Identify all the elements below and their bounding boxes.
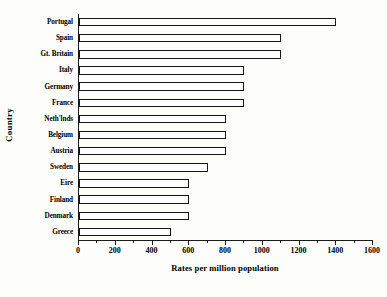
x-axis-minor-tick — [133, 240, 134, 243]
y-axis-tick-label: Austria — [16, 143, 76, 159]
y-axis-tick-label: Germany — [16, 79, 76, 95]
x-axis-title: Rates per million population — [78, 263, 372, 273]
bar-row — [79, 111, 372, 127]
y-axis-tick-label: Portugal — [16, 14, 76, 30]
bar — [79, 228, 171, 237]
x-axis-tick-labels: 02004006008001000120014001600 — [78, 246, 372, 258]
y-axis-tick-label: Denmark — [16, 208, 76, 224]
y-axis-tick-label: Gt. Britain — [16, 46, 76, 62]
x-axis-minor-tick — [207, 240, 208, 243]
bar — [79, 50, 281, 59]
x-axis-minor-tick — [170, 240, 171, 243]
bar — [79, 115, 226, 124]
bar-row — [79, 175, 372, 191]
bar-row — [79, 192, 372, 208]
y-axis-tick-label: Belgium — [16, 127, 76, 143]
bar-series — [79, 14, 372, 240]
bar — [79, 179, 189, 188]
x-axis-major-tick — [225, 240, 226, 245]
x-axis-tick-label: 200 — [109, 246, 121, 255]
bar-row — [79, 62, 372, 78]
x-axis-tick-label: 400 — [146, 246, 158, 255]
y-axis-tick-label: France — [16, 95, 76, 111]
y-axis-tick-label: Spain — [16, 30, 76, 46]
bar — [79, 195, 189, 204]
y-axis-tick-label: Italy — [16, 62, 76, 78]
bar-row — [79, 30, 372, 46]
bar-row — [79, 143, 372, 159]
x-axis-tick-label: 1200 — [291, 246, 307, 255]
bar — [79, 66, 244, 75]
y-axis-tick-label: Sweden — [16, 159, 76, 175]
x-axis-minor-tick — [317, 240, 318, 243]
x-axis-major-tick — [372, 240, 373, 245]
bar — [79, 34, 281, 43]
x-axis-minor-tick — [243, 240, 244, 243]
bar-row — [79, 14, 372, 30]
x-axis-tick-label: 0 — [76, 246, 80, 255]
x-axis-tick-label: 600 — [182, 246, 194, 255]
bar-row — [79, 46, 372, 62]
y-axis-title-text: Country — [4, 108, 14, 142]
x-axis-major-tick — [262, 240, 263, 245]
y-axis-tick-labels: Portugal Spain Gt. Britain Italy Germany… — [16, 14, 76, 240]
bar-row — [79, 224, 372, 240]
bar-row — [79, 208, 372, 224]
y-axis-tick-label: Finland — [16, 192, 76, 208]
bar-chart: Country Portugal Spain Gt. Britain Italy… — [0, 0, 387, 297]
bar-row — [79, 127, 372, 143]
x-axis-major-tick — [188, 240, 189, 245]
x-axis-tick-label: 1000 — [254, 246, 270, 255]
x-axis-major-tick — [152, 240, 153, 245]
x-axis-minor-tick — [96, 240, 97, 243]
bar-row — [79, 79, 372, 95]
bar — [79, 131, 226, 140]
x-axis-minor-tick — [280, 240, 281, 243]
bar — [79, 18, 336, 27]
x-axis-major-tick — [78, 240, 79, 245]
x-axis-major-tick — [299, 240, 300, 245]
y-axis-tick-label: Neth'lnds — [16, 111, 76, 127]
x-axis-major-tick — [335, 240, 336, 245]
bar — [79, 99, 244, 108]
x-axis-minor-tick — [354, 240, 355, 243]
plot-area — [78, 14, 372, 240]
y-axis-tick-label: Greece — [16, 224, 76, 240]
bar — [79, 163, 208, 172]
bar — [79, 212, 189, 221]
bar-row — [79, 95, 372, 111]
x-axis-tick-label: 1400 — [327, 246, 343, 255]
bar — [79, 82, 244, 91]
bar-row — [79, 159, 372, 175]
bar — [79, 147, 226, 156]
x-axis-major-tick — [115, 240, 116, 245]
x-axis-tick-label: 800 — [219, 246, 231, 255]
y-axis-tick-label: Eire — [16, 175, 76, 191]
x-axis-tick-label: 1600 — [364, 246, 380, 255]
